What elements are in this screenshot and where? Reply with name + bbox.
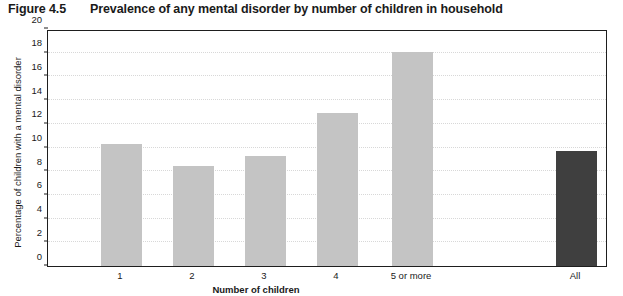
y-tick-label: 8 <box>37 157 48 167</box>
figure-title: Figure 4.5 Prevalence of any mental diso… <box>8 0 503 18</box>
y-tick-label: 0 <box>37 252 48 262</box>
y-tick-label: 18 <box>31 38 48 48</box>
x-axis-title: Number of children <box>47 284 465 295</box>
bar-series <box>48 31 606 266</box>
y-axis-title: Percentage of children with a mental dis… <box>12 33 23 273</box>
y-tick-label: 16 <box>31 62 48 72</box>
y-tick-label: 2 <box>37 228 48 238</box>
y-tick-label: 14 <box>31 86 48 96</box>
y-tick-mark <box>44 28 48 29</box>
plot-area: 02468101214161820 <box>47 30 607 267</box>
bar-all <box>556 151 597 266</box>
bar-2 <box>173 166 214 266</box>
bar-5-or-more <box>392 52 433 266</box>
figure-number: Figure 4.5 <box>8 2 90 16</box>
bar-3 <box>245 156 286 266</box>
figure-title-text: Prevalence of any mental disorder by num… <box>90 2 503 16</box>
y-tick-label: 4 <box>37 204 48 214</box>
x-axis-labels: 12345 or moreAll <box>47 271 607 285</box>
bar-4 <box>317 113 358 266</box>
y-tick-label: 6 <box>37 181 48 191</box>
y-tick-label: 12 <box>31 110 48 120</box>
bar-1 <box>101 144 142 266</box>
y-tick-label: 10 <box>31 133 48 143</box>
x-tick-label: 3 <box>261 271 266 281</box>
x-tick-label: 4 <box>333 271 338 281</box>
x-tick-label: 2 <box>189 271 194 281</box>
y-tick-label: 20 <box>31 15 48 25</box>
x-tick-label: 1 <box>117 271 122 281</box>
x-tick-label: 5 or more <box>391 271 432 281</box>
x-tick-label: All <box>570 271 581 281</box>
